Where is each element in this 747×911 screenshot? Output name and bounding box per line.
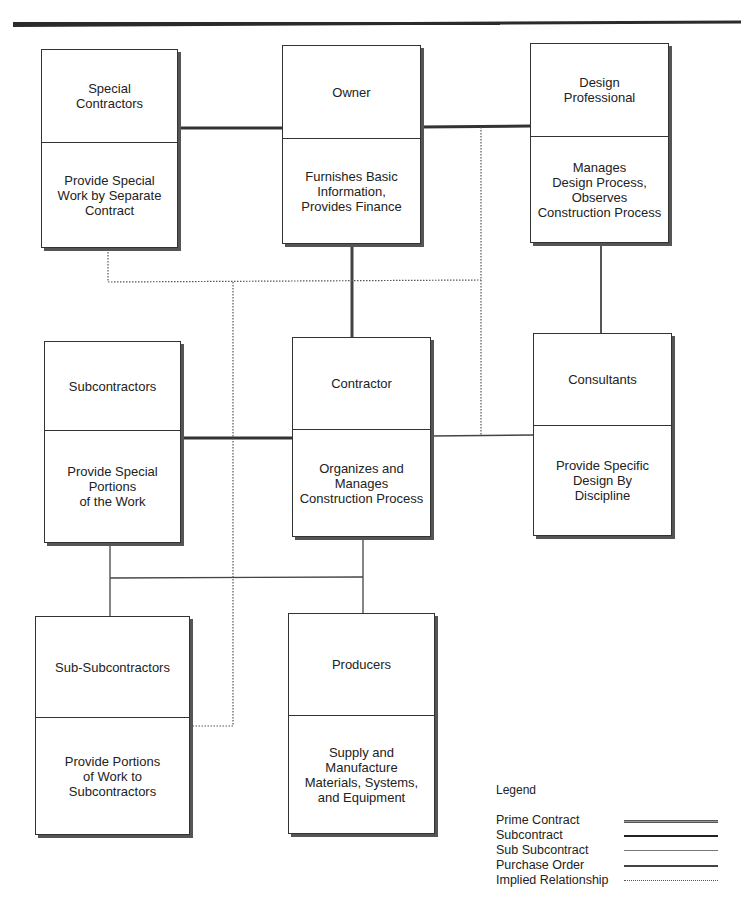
box-title: Producers — [289, 614, 434, 716]
thick-line-swatch-icon — [624, 835, 718, 837]
box-description: Provide Special Work by Separate Contrac… — [42, 143, 177, 247]
box-description: Furnishes Basic Information, Provides Fi… — [283, 139, 420, 243]
legend-item-purchase-order: Purchase Order — [496, 858, 746, 873]
legend-item-prime-contract: Prime Contract — [496, 813, 746, 828]
double-line-swatch-icon — [624, 820, 718, 823]
box-description: Organizes and Manages Construction Proce… — [293, 430, 430, 536]
box-description: Provide Specific Design By Discipline — [534, 426, 671, 535]
box-title: Contractor — [293, 338, 430, 430]
box-description: Provide Portions of Work to Subcontracto… — [36, 718, 189, 834]
legend-label: Purchase Order — [496, 858, 584, 872]
legend-item-subcontract: Subcontract — [496, 828, 746, 843]
box-title: Owner — [283, 46, 420, 139]
box-title: Consultants — [534, 334, 671, 426]
box-producers: Producers Supply and Manufacture Materia… — [288, 613, 435, 834]
box-design-professional: Design Professional Manages Design Proce… — [530, 43, 669, 243]
box-sub-subcontractors: Sub-Subcontractors Provide Portions of W… — [35, 616, 190, 835]
legend-title: Legend — [496, 783, 746, 797]
box-title: Design Professional — [531, 44, 668, 137]
legend-label: Sub Subcontract — [496, 843, 588, 857]
box-description: Manages Design Process, Observes Constru… — [531, 137, 668, 242]
legend-label: Implied Relationship — [496, 873, 609, 887]
legend-item-sub-subcontract: Sub Subcontract — [496, 843, 746, 858]
box-consultants: Consultants Provide Specific Design By D… — [533, 333, 672, 536]
box-title: Special Contractors — [42, 50, 177, 143]
box-description: Supply and Manufacture Materials, System… — [289, 716, 434, 833]
box-title: Subcontractors — [45, 342, 180, 431]
box-special-contractors: Special Contractors Provide Special Work… — [41, 49, 178, 248]
dotted-line-swatch-icon — [624, 880, 718, 881]
legend-label: Subcontract — [496, 828, 563, 842]
box-title: Sub-Subcontractors — [36, 617, 189, 718]
box-owner: Owner Furnishes Basic Information, Provi… — [282, 45, 421, 244]
box-description: Provide Special Portions of the Work — [45, 431, 180, 542]
box-contractor: Contractor Organizes and Manages Constru… — [292, 337, 431, 537]
legend-item-implied-relationship: Implied Relationship — [496, 873, 746, 888]
legend-label: Prime Contract — [496, 813, 579, 827]
medium-line-swatch-icon — [624, 865, 718, 867]
legend: Legend Prime Contract Subcontract Sub Su… — [496, 783, 746, 888]
box-subcontractors: Subcontractors Provide Special Portions … — [44, 341, 181, 543]
thin-line-swatch-icon — [624, 850, 718, 851]
